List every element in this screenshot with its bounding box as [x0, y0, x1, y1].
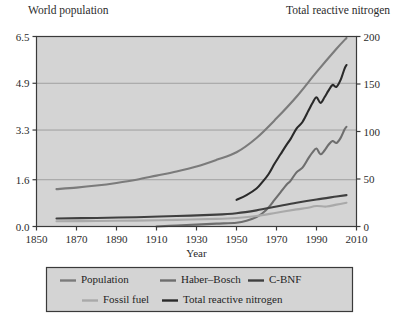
x-tick-label: 1950	[226, 233, 249, 245]
left-axis-header: World population	[28, 4, 109, 16]
x-tick-label: 1970	[266, 233, 289, 245]
left-tick-label: 6.5	[16, 31, 30, 43]
right-tick-label: 50	[364, 173, 376, 185]
legend-label: Haber–Bosch	[181, 273, 241, 285]
right-tick-label: 0	[364, 221, 370, 233]
left-tick-label: 1.6	[16, 174, 30, 186]
plot-background	[37, 37, 357, 227]
chart-figure: World population Total reactive nitrogen…	[0, 0, 397, 319]
x-tick-label: 1870	[66, 233, 89, 245]
x-tick-label: 1910	[146, 233, 169, 245]
right-tick-label: 200	[364, 31, 381, 43]
left-tick-label: 4.9	[16, 77, 30, 89]
x-tick-label: 1990	[306, 233, 329, 245]
legend-label: Fossil fuel	[103, 293, 149, 305]
right-axis-header: Total reactive nitrogen	[286, 4, 390, 16]
right-tick-label: 150	[364, 78, 381, 90]
right-axis-tick-labels: 050100150200	[364, 31, 381, 233]
x-tick-label: 1930	[186, 233, 209, 245]
right-tick-label: 100	[364, 126, 381, 138]
legend-label: Population	[81, 273, 129, 285]
legend-label: C-BNF	[269, 273, 301, 285]
x-tick-label: 2010	[346, 233, 369, 245]
x-tick-label: 1890	[106, 233, 129, 245]
legend-label: Total reactive nitrogen	[183, 293, 283, 305]
x-axis-title: Year	[186, 247, 207, 259]
chart-svg: 0.01.63.34.96.5 050100150200 18501870189…	[0, 0, 397, 319]
left-tick-label: 0.0	[16, 221, 30, 233]
left-tick-label: 3.3	[16, 124, 30, 136]
x-tick-label: 1850	[26, 233, 49, 245]
left-axis-tick-labels: 0.01.63.34.96.5	[16, 31, 30, 233]
x-axis-tick-labels: 185018701890191019301950197019902010	[26, 233, 369, 245]
